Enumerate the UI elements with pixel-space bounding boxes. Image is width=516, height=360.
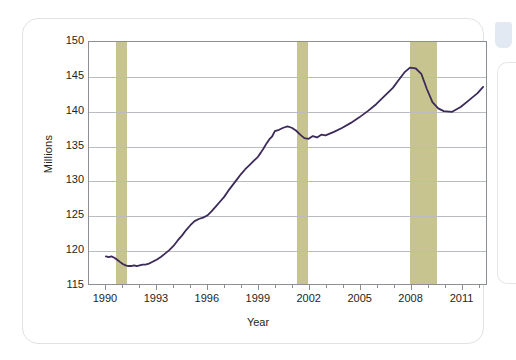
x-axis-tick-mark bbox=[258, 285, 259, 290]
y-axis-title: Millions bbox=[42, 124, 54, 184]
y-axis-tick-label: 120 bbox=[56, 244, 84, 255]
x-axis-minor-tick-mark bbox=[139, 285, 140, 288]
y-axis-tick-label: 130 bbox=[56, 174, 84, 185]
x-axis-title: Year bbox=[0, 316, 516, 328]
x-axis-tick-mark bbox=[309, 285, 310, 290]
x-axis-tick-label: 2008 bbox=[386, 292, 436, 304]
series-line bbox=[106, 68, 483, 266]
x-axis-minor-tick-mark bbox=[479, 285, 480, 288]
x-axis-tick-mark bbox=[207, 285, 208, 290]
x-axis-minor-tick-mark bbox=[292, 285, 293, 288]
figure-page: 115120125130135140145150 199019931996199… bbox=[0, 0, 516, 360]
series-employment bbox=[89, 42, 486, 284]
x-axis-tick-mark bbox=[105, 285, 106, 290]
x-axis-minor-tick-mark bbox=[326, 285, 327, 288]
x-axis-tick-mark bbox=[360, 285, 361, 290]
x-axis-minor-tick-mark bbox=[241, 285, 242, 288]
x-axis-minor-tick-mark bbox=[122, 285, 123, 288]
x-axis-minor-tick-mark bbox=[428, 285, 429, 288]
x-axis-tick-mark bbox=[411, 285, 412, 290]
x-axis-tick-label: 2005 bbox=[335, 292, 385, 304]
x-axis-tick-mark bbox=[462, 285, 463, 290]
x-axis-tick-label: 2011 bbox=[437, 292, 487, 304]
y-axis-tick-label: 145 bbox=[56, 70, 84, 81]
x-axis-minor-tick-mark bbox=[275, 285, 276, 288]
x-axis-tick-label: 1996 bbox=[182, 292, 232, 304]
x-axis-tick-label: 2002 bbox=[284, 292, 334, 304]
x-axis-minor-tick-mark bbox=[445, 285, 446, 288]
y-axis-ticks: 115120125130135140145150 bbox=[52, 0, 84, 360]
y-axis-tick-label: 115 bbox=[56, 279, 84, 290]
x-axis-tick-label: 1993 bbox=[131, 292, 181, 304]
x-axis-minor-tick-mark bbox=[190, 285, 191, 288]
y-axis-tick-label: 150 bbox=[56, 35, 84, 46]
x-axis-minor-tick-mark bbox=[173, 285, 174, 288]
y-axis-tick-label: 140 bbox=[56, 105, 84, 116]
x-axis-tick-mark bbox=[156, 285, 157, 290]
x-axis-minor-tick-mark bbox=[394, 285, 395, 288]
line-chart: 115120125130135140145150 199019931996199… bbox=[0, 0, 516, 360]
x-axis-minor-tick-mark bbox=[377, 285, 378, 288]
plot-area bbox=[88, 41, 487, 285]
y-axis-tick-label: 135 bbox=[56, 140, 84, 151]
x-axis-minor-tick-mark bbox=[343, 285, 344, 288]
y-axis-tick-label: 125 bbox=[56, 209, 84, 220]
x-axis-minor-tick-mark bbox=[224, 285, 225, 288]
x-axis-tick-label: 1999 bbox=[233, 292, 283, 304]
x-axis-tick-label: 1990 bbox=[80, 292, 130, 304]
